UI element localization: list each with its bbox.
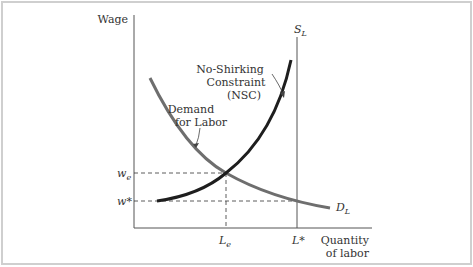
wstar-tick: w*: [117, 195, 132, 208]
x-axis-label-2: of labor: [326, 247, 370, 260]
nsc-label-1: No-Shirking: [196, 63, 264, 76]
nsc-label-2: Constraint: [206, 76, 266, 89]
y-axis-label: Wage: [98, 13, 128, 26]
nsc-arrow: [272, 74, 283, 94]
we-tick: we: [117, 167, 131, 182]
labor-market-chart: Wage SL No-Shirking Constraint (NSC) Dem…: [0, 0, 473, 267]
demand-label-2: for Labor: [175, 116, 228, 129]
sl-label: SL: [294, 23, 307, 38]
lstar-tick: L*: [291, 234, 305, 247]
dl-label: DL: [335, 201, 350, 216]
nsc-label-3: (NSC): [227, 89, 261, 102]
demand-label-1: Demand: [168, 103, 214, 116]
le-tick: Le: [218, 234, 231, 249]
x-axis-label-1: Quantity: [321, 234, 370, 247]
demand-arrow: [196, 128, 200, 145]
